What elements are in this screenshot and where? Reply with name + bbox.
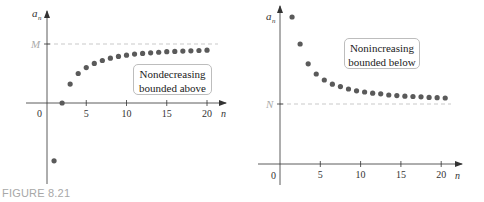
data-point (116, 54, 121, 59)
chart-left: 5101520 a n M 0 n (26, 7, 226, 184)
data-point (156, 50, 161, 55)
data-point (370, 91, 375, 96)
data-point (124, 53, 129, 58)
data-point (132, 51, 137, 56)
bound-label-N: N (265, 98, 274, 110)
data-point (76, 71, 81, 76)
chart-right: 5101520 a n N 0 n (258, 6, 462, 185)
data-point (92, 61, 97, 66)
annotation-line-1: Nonincreasing (345, 41, 419, 55)
data-point (346, 86, 351, 91)
annotation-line-2: bounded above (134, 81, 211, 95)
data-point (84, 65, 89, 70)
data-point (443, 95, 448, 100)
data-point (435, 95, 440, 100)
data-point (314, 71, 319, 76)
svg-text:15: 15 (396, 169, 406, 180)
data-point (60, 100, 65, 105)
data-point (164, 49, 169, 54)
svg-text:15: 15 (162, 108, 172, 119)
data-point (100, 58, 105, 63)
origin-label: 0 (37, 108, 42, 119)
svg-text:5: 5 (84, 108, 89, 119)
annotation-nondecreasing: Nondecreasing bounded above (133, 64, 212, 95)
annotation-nonincreasing: Nonincreasing bounded below (344, 38, 420, 69)
data-point (172, 49, 177, 54)
data-point (180, 48, 185, 53)
data-point (289, 14, 294, 19)
svg-text:n: n (272, 17, 276, 25)
data-point (68, 82, 73, 87)
data-point (322, 77, 327, 82)
data-point (148, 50, 153, 55)
annotation-line-2: bounded below (345, 55, 419, 69)
data-point (51, 158, 56, 163)
data-point (298, 41, 303, 46)
annotation-line-1: Nondecreasing (134, 67, 211, 81)
svg-text:n: n (38, 14, 42, 22)
data-point (418, 94, 423, 99)
data-point (306, 61, 311, 66)
x-axis-label: n (221, 108, 226, 119)
data-point (204, 48, 209, 53)
bound-label-M: M (30, 38, 41, 50)
data-point (108, 56, 113, 61)
data-point (330, 82, 335, 87)
data-point (140, 51, 145, 56)
svg-text:10: 10 (122, 108, 132, 119)
origin-label: 0 (271, 170, 276, 181)
svg-text:10: 10 (356, 169, 366, 180)
data-point (402, 94, 407, 99)
data-point (386, 92, 391, 97)
data-point (394, 93, 399, 98)
data-point (410, 94, 415, 99)
data-point (196, 48, 201, 53)
svg-text:20: 20 (202, 108, 212, 119)
data-point (338, 84, 343, 89)
data-point (426, 95, 431, 100)
data-point (188, 48, 193, 53)
data-point (362, 89, 367, 94)
figure-canvas: 5101520 a n M 0 n 5101520 a n N 0 n (0, 0, 484, 202)
x-axis-label: n (455, 170, 460, 181)
figure-caption: FIGURE 8.21 (2, 187, 70, 199)
data-point (378, 91, 383, 96)
data-point (354, 88, 359, 93)
svg-text:20: 20 (436, 169, 446, 180)
svg-text:5: 5 (318, 169, 323, 180)
